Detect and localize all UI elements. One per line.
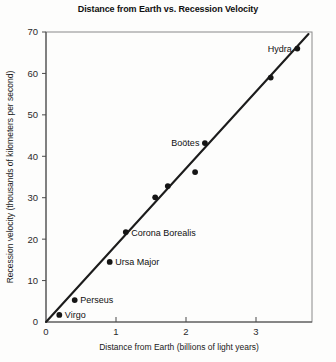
- data-point-perseus: [72, 297, 78, 303]
- data-point-corona-borealis: [123, 229, 129, 235]
- x-tick-label: 0: [43, 326, 48, 337]
- point-label-corona-borealis: Corona Borealis: [131, 228, 196, 238]
- data-point-virgo: [56, 312, 62, 318]
- data-point-bootes: [202, 140, 208, 146]
- data-point-unlabeled-3: [192, 169, 198, 175]
- data-point-hydra: [294, 46, 300, 52]
- data-point-unlabeled-4: [268, 75, 274, 81]
- y-tick-label: 50: [27, 109, 38, 120]
- x-tick-label: 1: [113, 326, 118, 337]
- data-point-ursa-major: [107, 259, 113, 265]
- x-axis-label: Distance from Earth (billions of light y…: [99, 342, 259, 352]
- chart-container: Distance from Earth vs. Recession Veloci…: [0, 0, 336, 362]
- point-label-perseus: Perseus: [80, 295, 114, 305]
- point-label-bootes: Boötes: [171, 138, 200, 148]
- x-tick-label: 3: [253, 326, 258, 337]
- point-label-ursa-major: Ursa Major: [115, 257, 159, 267]
- y-axis-label: Recession velocity (thousands of kilomet…: [5, 71, 15, 284]
- y-tick-label: 0: [33, 316, 38, 327]
- data-point-unlabeled-2: [165, 183, 171, 189]
- chart-plot-svg: 0102030405060700123VirgoPerseusUrsa Majo…: [0, 0, 336, 362]
- y-tick-label: 70: [27, 26, 38, 37]
- y-tick-label: 10: [27, 275, 38, 286]
- y-tick-label: 40: [27, 151, 38, 162]
- y-tick-label: 20: [27, 234, 38, 245]
- data-point-unlabeled-1: [152, 194, 158, 200]
- y-tick-label: 60: [27, 68, 38, 79]
- x-tick-label: 2: [183, 326, 188, 337]
- point-label-virgo: Virgo: [65, 310, 86, 320]
- y-tick-label: 30: [27, 192, 38, 203]
- point-label-hydra: Hydra: [268, 44, 292, 54]
